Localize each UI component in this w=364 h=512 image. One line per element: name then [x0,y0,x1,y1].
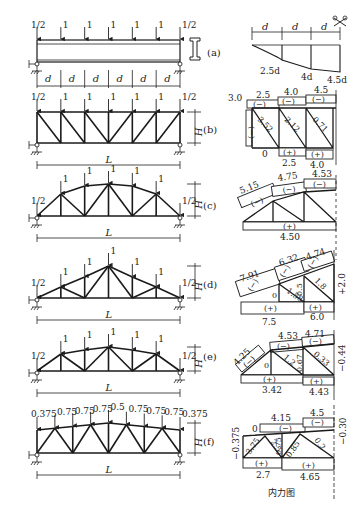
support-node [178,143,182,147]
roller-support [174,453,185,465]
load-label: 1/2 [31,278,45,288]
load-label: 1 [87,92,93,102]
panel-dim-label: d [140,73,146,84]
sign-top-c-2: (−) [282,184,296,195]
diagonal-member [132,194,156,216]
top-chord-segment [132,277,156,287]
force-diagram-b: 3.0 (−) 2.5 4.0 4.5 (−) (−) (−) 3.52 2.1… [228,85,336,170]
load-label: 1 [63,20,69,30]
top-chord-segment [91,423,109,425]
support-node [35,453,39,457]
diagonal-member [109,347,133,371]
dims-b: HL [37,109,204,169]
support-hatch [34,71,36,74]
load-label: 1 [134,20,140,30]
span-label: L [105,309,113,320]
load-label: 1 [63,267,69,277]
support-hatch [177,152,179,155]
panel-dim-label: d [93,73,99,84]
load-label: 0.5 [111,402,126,412]
load-label: 1 [87,166,93,176]
top-chord-segment [85,184,109,186]
force-diag-b-1: 3.52 [256,115,275,134]
sign-bottom-c: (+) [283,222,296,231]
diagonal-member [109,425,127,453]
support-hatch [37,462,39,465]
sign-bottom-d-1: (+) [264,304,277,313]
load-label: 0.375 [31,409,57,419]
diagonal-member [61,112,85,143]
load-label: 1 [158,20,164,30]
load-arrows-b: 1/2111111/2 [31,92,196,111]
span-label: L [105,382,113,393]
force-end-post-f: −0.375 [231,426,241,460]
sign-end-post-b: (−) [247,126,256,139]
top-chord-segment [144,427,162,429]
span-label: L [105,227,113,238]
support-hatch [177,307,179,310]
support-hatch [34,152,36,155]
support-hatch [174,462,176,465]
support-node [178,453,182,457]
diagonal-member [61,354,85,371]
diagonal-member [61,287,85,298]
force-bottom-e-1: 3.42 [262,385,282,395]
diagonal-member [61,194,85,216]
sign-bottom-e-1: (+) [263,375,276,384]
truss-f [29,423,185,465]
truss-e [29,347,185,383]
force-vert-d-1: 0 [272,291,277,300]
load-label: 1 [87,330,93,340]
top-chord-segment [109,423,127,425]
support-hatch [31,225,33,228]
diagonal-member [162,428,180,453]
load-label: 1 [134,92,140,102]
support-hatch [177,380,179,383]
support-hatch [34,462,36,465]
panel-tag-b: (b) [203,124,217,135]
support-node [35,143,39,147]
load-label: 1 [111,20,117,30]
support-node [35,62,39,66]
top-chord-segment [132,186,156,194]
top-chord-segment [126,425,144,427]
load-label: 1 [134,330,140,340]
top-chord-segment [61,186,85,194]
support-hatch [31,380,33,383]
span-label: L [105,464,113,475]
panel-dim-label: d [164,73,170,84]
load-label: 1/2 [31,196,45,206]
truss-c [29,184,185,228]
panel-dim-label: d [69,73,75,84]
support-hatch [37,307,39,310]
load-label: 1 [158,267,164,277]
support-hatch [34,225,36,228]
sign-top-c-3: (−) [313,180,326,189]
sign-bottom-b-1: (+) [283,148,296,157]
support-hatch [177,71,179,74]
sign-top-f-2: (−) [311,418,324,427]
diagonal-member [73,425,91,453]
load-label: 1 [111,164,117,174]
sign-top-f-1: (−) [279,424,292,433]
diagonal-member [156,112,180,143]
support-hatch [31,152,33,155]
force-bottom-c: 4.50 [280,232,300,242]
sign-top-b-1: (−) [253,100,266,109]
panel-tag-c: (c) [203,200,217,211]
dims-c: HL [37,181,204,242]
force-diag-f-4: 0.2 [312,436,327,452]
load-label: 1/2 [182,20,196,30]
support-hatch [180,225,182,228]
panel-tag-f: (f) [203,436,215,447]
force-bottom-f-1: 2.7 [256,470,271,480]
force-diag-f-1: 3.75 [244,436,262,456]
panel-a: 1/2111111/2 (a) dddddd d d d 2.5d 4d 4.5… [29,16,347,88]
sign-bottom-e-2: (+) [310,377,323,386]
force-vert-e-2: 0.67 [295,354,304,372]
panel-f: 0.3750.750.750.750.50.750.750.750.375 HL… [29,402,348,500]
panel-c: 1/2111111/2 HL (c) 5.15 4.75 4.53 (−) (−… [29,164,336,260]
diagonal-member [109,112,133,143]
force-top-b-3: 4.5 [314,85,329,95]
load-label: 1/2 [31,351,45,361]
